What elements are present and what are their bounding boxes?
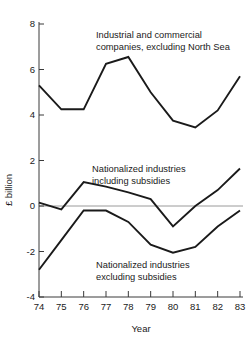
x-tick-label: 77 (101, 301, 112, 312)
y-tick-label: 0 (30, 200, 35, 211)
annot-nationalized-excluding-line-0: Nationalized industries (96, 260, 190, 270)
x-tick-label: 76 (78, 301, 89, 312)
annot-nationalized-including: Nationalized industriesincluding subsidi… (92, 164, 186, 186)
annot-nationalized-excluding-line-1: excluding subsidies (96, 272, 177, 282)
annot-industrial-line-1: companies, excluding North Sea (96, 42, 231, 52)
x-tick-label: 75 (56, 301, 67, 312)
annot-industrial-line-0: Industrial and commercial (96, 30, 202, 40)
series-line-0 (39, 57, 240, 128)
y-tick-label: 6 (30, 64, 35, 75)
y-axis: -4-202468 £ billion (3, 18, 44, 302)
chart-figure: -4-202468 £ billion 74757677787980818283… (0, 0, 252, 340)
annot-nationalized-including-line-0: Nationalized industries (92, 164, 186, 174)
annot-industrial: Industrial and commercialcompanies, excl… (96, 30, 231, 52)
x-tick-label: 83 (235, 301, 246, 312)
x-tick-group: 74757677787980818283 (34, 291, 246, 312)
y-tick-label: 4 (30, 109, 35, 120)
line-chart-svg: -4-202468 £ billion 74757677787980818283… (0, 0, 252, 340)
y-tick-label: 8 (30, 18, 35, 29)
x-axis-title: Year (131, 323, 150, 334)
x-tick-label: 80 (168, 301, 179, 312)
y-tick-group: -4-202468 (27, 18, 44, 302)
y-axis-title: £ billion (3, 174, 14, 206)
x-tick-label: 82 (212, 301, 223, 312)
x-axis: 74757677787980818283 Year (34, 291, 246, 334)
x-tick-label: 79 (145, 301, 156, 312)
y-tick-label: -2 (27, 246, 35, 257)
x-tick-label: 78 (123, 301, 134, 312)
y-tick-label: 2 (30, 155, 35, 166)
annotation-group: Industrial and commercialcompanies, excl… (92, 30, 231, 282)
annot-nationalized-including-line-1: including subsidies (92, 176, 170, 186)
annot-nationalized-excluding: Nationalized industriesexcluding subsidi… (96, 260, 190, 282)
x-tick-label: 74 (34, 301, 45, 312)
x-tick-label: 81 (190, 301, 201, 312)
